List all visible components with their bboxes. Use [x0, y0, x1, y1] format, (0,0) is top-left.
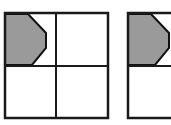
- figure-right: [0, 0, 171, 125]
- diagram-canvas: [0, 0, 171, 125]
- figure-right-svg: [0, 0, 171, 125]
